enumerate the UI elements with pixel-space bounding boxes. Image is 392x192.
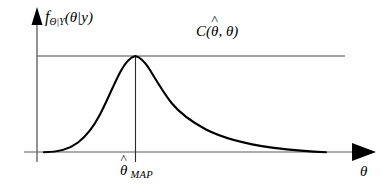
map-theta-hat: ˄θ xyxy=(120,163,127,178)
cost-function-c-symbol: C xyxy=(196,23,206,39)
y-axis-label: fΘ|Y(θ|y) xyxy=(45,9,93,28)
cost-function-close-paren: ) xyxy=(233,23,238,39)
map-theta-base: θ xyxy=(120,162,127,178)
y-axis-y-symbol: y xyxy=(81,9,88,25)
map-estimate-label: ˄θMAP xyxy=(120,163,153,180)
posterior-density-curve xyxy=(44,56,326,152)
posterior-density-figure: fΘ|Y(θ|y) C(˄θ, θ) ˄θMAP θ xyxy=(0,0,392,192)
cost-function-comma: , xyxy=(218,23,222,39)
x-axis-label: θ xyxy=(360,164,367,179)
y-axis-subscript: Θ|Y xyxy=(49,17,64,27)
map-subscript: MAP xyxy=(127,169,153,180)
cost-function-theta-hat: ˄θ xyxy=(211,24,218,39)
cost-function-theta-hat-base: θ xyxy=(211,23,218,39)
x-axis-arrowhead xyxy=(352,143,376,161)
y-axis-arrowhead xyxy=(32,7,43,25)
cost-function-label: C(˄θ, θ) xyxy=(196,24,238,39)
y-axis-close-paren: ) xyxy=(88,9,93,25)
